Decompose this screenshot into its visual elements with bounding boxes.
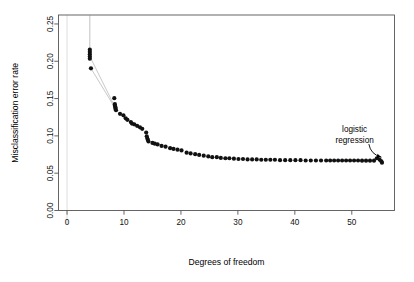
data-point	[223, 156, 227, 160]
misclassification-error-scatter-plot: 01020304050 0.000.050.100.150.200.25 Deg…	[0, 0, 414, 282]
data-point	[319, 158, 323, 162]
data-point	[193, 152, 197, 156]
data-point	[202, 154, 206, 158]
data-point	[189, 151, 193, 155]
x-axis-title: Degrees of freedom	[189, 257, 265, 267]
data-point	[309, 158, 313, 162]
data-point	[340, 158, 344, 162]
data-point	[227, 156, 231, 160]
data-point	[332, 158, 336, 162]
data-point	[348, 158, 352, 162]
x-tick-label-50: 50	[347, 218, 357, 227]
data-point	[298, 158, 302, 162]
data-point	[304, 158, 308, 162]
data-point	[163, 145, 167, 149]
data-point	[146, 139, 150, 143]
data-point	[210, 155, 214, 159]
data-point	[232, 157, 236, 161]
data-point	[215, 155, 219, 159]
data-point	[114, 108, 118, 112]
data-point	[283, 158, 287, 162]
data-point	[255, 157, 259, 161]
data-point	[197, 153, 201, 157]
data-point	[324, 158, 328, 162]
logistic-regression-label-line-1: regression	[336, 136, 375, 145]
data-point	[219, 156, 223, 160]
logistic-regression-label-line-0: logistic	[342, 125, 367, 134]
x-tick-label-40: 40	[290, 218, 300, 227]
data-point	[364, 159, 368, 163]
data-point	[356, 158, 360, 162]
x-tick-label-20: 20	[176, 218, 186, 227]
data-point	[144, 130, 148, 134]
y-tick-label-0.20: 0.20	[46, 53, 55, 69]
data-point	[360, 159, 364, 163]
data-point	[140, 127, 144, 131]
x-tick-label-0: 0	[65, 218, 70, 227]
data-point	[250, 157, 254, 161]
chart-figure: 01020304050 0.000.050.100.150.200.25 Deg…	[0, 0, 414, 282]
data-point	[241, 157, 245, 161]
data-point	[179, 148, 183, 152]
y-axis-title: Misclassification error rate	[10, 63, 20, 163]
data-point	[185, 151, 189, 155]
data-point	[278, 158, 282, 162]
data-point	[245, 157, 249, 161]
y-tick-label-0.15: 0.15	[46, 90, 55, 106]
y-tick-label-0.25: 0.25	[46, 16, 55, 32]
data-point	[88, 57, 92, 61]
data-point	[175, 148, 179, 152]
y-tick-label-0.00: 0.00	[46, 202, 55, 218]
data-point	[328, 158, 332, 162]
data-point	[288, 158, 292, 162]
data-point	[264, 158, 268, 162]
data-point	[293, 158, 297, 162]
data-point	[259, 158, 263, 162]
data-point	[159, 144, 163, 148]
data-point	[368, 159, 372, 163]
y-tick-label-0.05: 0.05	[46, 165, 55, 181]
data-point	[171, 147, 175, 151]
data-point	[112, 96, 116, 100]
data-point	[380, 161, 384, 165]
x-tick-label-10: 10	[119, 218, 129, 227]
data-point	[336, 158, 340, 162]
x-tick-label-30: 30	[233, 218, 243, 227]
data-point	[344, 158, 348, 162]
data-point	[273, 158, 277, 162]
data-point	[314, 158, 318, 162]
data-point	[155, 142, 159, 146]
data-point	[206, 154, 210, 158]
data-point	[352, 158, 356, 162]
data-point	[89, 66, 93, 70]
data-point	[268, 158, 272, 162]
y-tick-label-0.10: 0.10	[46, 127, 55, 143]
data-point	[236, 157, 240, 161]
